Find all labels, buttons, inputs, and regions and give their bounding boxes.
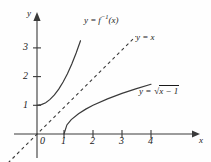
curve-label-inverse: y =f−1(x) [84, 13, 118, 25]
curve-label-sqrt: y =√x − 1 [139, 86, 179, 96]
curve-label-inverse-arg: (x) [108, 15, 118, 25]
x-tick-label-1: 1 [61, 135, 66, 146]
x-tick-label-4: 4 [148, 135, 153, 146]
x-tick-label-3: 3 [119, 135, 124, 146]
x-axis-label: x [199, 135, 203, 145]
curve-label-identity: y = x [136, 32, 155, 42]
figure-canvas: y x 0 1 2 3 4 1 2 3 y =f−1(x) y = x y =√… [0, 0, 211, 162]
y-axis-label: y [27, 8, 31, 18]
curve-label-sqrt-radicand: x − 1 [159, 85, 179, 96]
curve-inverse [37, 41, 81, 106]
curve-label-inverse-lhs: y = [84, 15, 96, 25]
y-tick-label-1: 1 [23, 99, 28, 110]
curve-label-sqrt-lhs: y = [139, 86, 151, 96]
y-tick-label-2: 2 [23, 70, 28, 81]
x-tick-label-2: 2 [90, 135, 95, 146]
curve-sqrt [64, 84, 151, 134]
origin-tick-label: 0 [40, 135, 45, 146]
y-tick-label-3: 3 [23, 41, 28, 52]
